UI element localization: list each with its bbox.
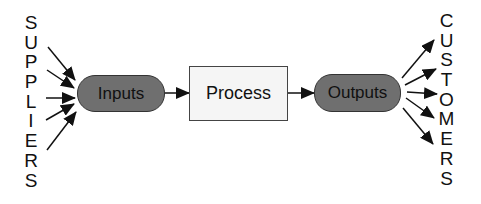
letter: E	[440, 129, 453, 149]
letter: O	[439, 90, 454, 110]
letter: M	[439, 109, 455, 129]
inputs-node: Inputs	[77, 75, 165, 112]
customer-arrow-4	[406, 98, 434, 118]
letter: S	[440, 50, 453, 70]
letter: R	[24, 151, 38, 171]
outputs-node: Outputs	[314, 74, 401, 112]
letter: U	[440, 31, 454, 51]
supplier-arrow-1	[48, 47, 75, 80]
letter: R	[440, 149, 454, 169]
letter: P	[25, 52, 38, 72]
process-node: Process	[189, 66, 288, 121]
outputs-label: Outputs	[328, 83, 388, 103]
customer-arrow-3	[407, 92, 437, 94]
letter: S	[25, 13, 38, 33]
letter: E	[25, 131, 38, 151]
suppliers-label: SUPPLIERS	[24, 13, 38, 190]
letter: S	[25, 171, 38, 191]
letter: P	[25, 72, 38, 92]
process-label: Process	[206, 83, 271, 104]
letter: I	[28, 111, 33, 131]
letter: L	[26, 92, 37, 112]
supplier-arrows	[46, 47, 76, 150]
customer-arrow-2	[405, 69, 436, 85]
customer-arrows	[402, 40, 437, 144]
letter: C	[440, 11, 454, 31]
letter: S	[440, 169, 453, 189]
letter: U	[24, 33, 38, 53]
customers-label: CUSTOMERS	[439, 11, 454, 188]
letter: T	[441, 70, 453, 90]
supplier-arrow-4	[46, 104, 74, 120]
inputs-label: Inputs	[98, 84, 144, 104]
